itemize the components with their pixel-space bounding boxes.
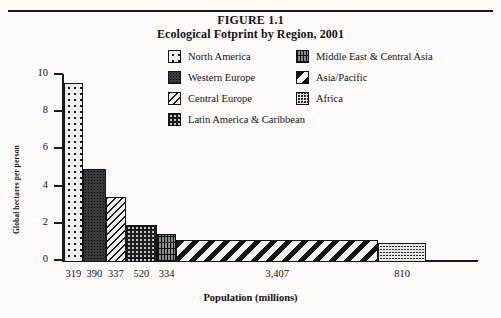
x-axis-tick-label: 3,407 [252, 268, 302, 279]
bar-north-america [64, 83, 83, 262]
bar-asia-pacific [176, 240, 378, 262]
y-axis-tick-label: 6 [14, 142, 48, 152]
y-axis-tick-label: 2 [14, 217, 48, 227]
y-axis-tick-label: 4 [14, 180, 48, 190]
bar-middle-east-central-asia [157, 234, 177, 262]
bar-western-europe [83, 169, 106, 262]
y-axis-tick [54, 110, 63, 112]
y-axis-tick [54, 222, 63, 224]
y-axis-tick-label: 10 [14, 68, 48, 78]
y-axis-tick [54, 73, 63, 75]
figure-container: FIGURE 1.1 Ecological Fotprint by Region… [0, 0, 501, 318]
bar-series [64, 74, 478, 262]
bar-africa [378, 243, 426, 262]
x-axis-title: Population (millions) [0, 292, 501, 303]
y-axis-tick [54, 259, 63, 261]
y-axis-tick-label: 0 [14, 254, 48, 264]
y-axis-tick [54, 147, 63, 149]
bar-latin-america-caribbean [126, 225, 157, 262]
bar-central-europe [106, 197, 126, 262]
y-axis-tick [54, 185, 63, 187]
x-axis-tick-label: 810 [377, 268, 427, 279]
x-axis-tick-label: 334 [142, 268, 192, 279]
y-axis-tick-label: 8 [14, 105, 48, 115]
plot-area: Global hectares per person 0246810 31939… [0, 0, 501, 318]
